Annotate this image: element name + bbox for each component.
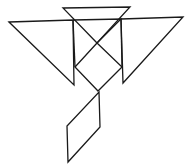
right-large-triangle [121, 17, 183, 83]
center-upper-triangle [73, 19, 121, 43]
tangram-figure [0, 0, 185, 167]
left-large-triangle [9, 20, 74, 85]
parallelogram [67, 92, 100, 162]
center-square [75, 43, 122, 91]
